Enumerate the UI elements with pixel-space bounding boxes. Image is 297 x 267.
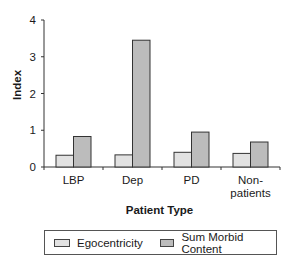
legend-item-sum-morbid-content: Sum Morbid Content xyxy=(160,231,276,255)
x-tick-label: PD xyxy=(184,174,200,186)
bar-sum-morbid-content xyxy=(192,132,210,167)
y-axis-label: Index xyxy=(11,70,23,100)
x-tick-label: LBP xyxy=(63,174,85,186)
bar-sum-morbid-content xyxy=(74,136,92,167)
y-tick-label: 3 xyxy=(30,51,36,63)
x-tick-label: Dep xyxy=(122,174,143,186)
y-tick-label: 1 xyxy=(30,124,36,136)
legend-swatch-sum-morbid-content xyxy=(160,239,175,247)
y-tick-label: 2 xyxy=(30,88,36,100)
y-tick-label: 4 xyxy=(30,14,37,26)
bar-egocentricity xyxy=(115,155,133,167)
y-tick-label: 0 xyxy=(30,161,36,173)
x-tick-label: patients xyxy=(230,187,271,199)
legend: Egocentricity Sum Morbid Content xyxy=(44,230,277,255)
bar-sum-morbid-content xyxy=(251,142,269,167)
x-tick-label: Non- xyxy=(238,174,263,186)
bar-chart: 01234LBPDepPDNon-patients xyxy=(0,0,297,267)
legend-label: Sum Morbid Content xyxy=(181,231,276,255)
bar-egocentricity xyxy=(233,153,251,167)
bar-egocentricity xyxy=(174,152,192,167)
legend-item-egocentricity: Egocentricity xyxy=(54,237,143,249)
legend-label: Egocentricity xyxy=(77,237,143,249)
legend-swatch-egocentricity xyxy=(54,239,70,247)
x-axis-label: Patient Type xyxy=(0,204,297,216)
bar-egocentricity xyxy=(56,155,74,167)
bar-sum-morbid-content xyxy=(133,40,151,167)
